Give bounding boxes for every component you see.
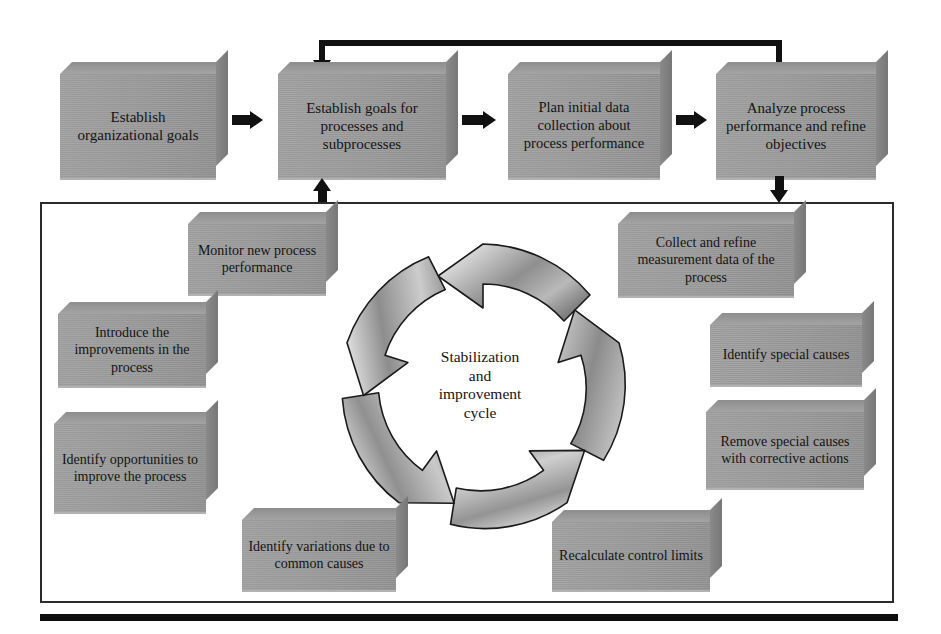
box-top-face	[58, 302, 218, 314]
box-shadow-edge	[278, 178, 446, 180]
box-front-face: Collect and refine measurement data of t…	[618, 224, 794, 296]
cycle-box-label: Collect and refine measurement data of t…	[624, 234, 788, 285]
box-top-face	[716, 62, 888, 74]
box-side-face	[660, 50, 672, 166]
cycle-box-identify-opportunities-to-improve[interactable]: Identify opportunities to improve the pr…	[54, 412, 218, 512]
stabilization-improvement-cycle-graphic	[318, 222, 648, 552]
box-shadow-edge	[54, 512, 206, 514]
box-side-face	[862, 301, 874, 373]
arrow-1-to-2-shaft	[232, 115, 252, 125]
flow-box-label: Analyze process performance and refine o…	[722, 99, 870, 154]
cycle-box-monitor-new-process-performance[interactable]: Monitor new process performance	[188, 212, 338, 294]
box-front-face: Identify variations due to common causes	[242, 520, 396, 590]
box-front-face: Establish goals for processes and subpro…	[278, 74, 446, 178]
box-side-face	[326, 200, 338, 282]
flow-box-label: Plan initial data collection about proce…	[514, 99, 654, 152]
box-shadow-edge	[188, 294, 326, 296]
box-side-face	[446, 50, 458, 166]
box-shadow-edge	[716, 178, 876, 180]
box-front-face: Remove special causes with corrective ac…	[706, 412, 864, 488]
box-front-face: Introduce the improvements in the proces…	[58, 314, 206, 386]
cycle-arrow-segment	[532, 300, 648, 468]
cycle-box-collect-and-refine-measurement-data[interactable]: Collect and refine measurement data of t…	[618, 212, 806, 296]
box-front-face: Identify special causes	[710, 325, 862, 385]
cycle-box-label: Monitor new process performance	[194, 242, 320, 276]
bottom-horizontal-rule	[40, 614, 898, 621]
arrow-panel-to-box2-shaft	[318, 190, 327, 202]
box-side-face	[864, 388, 876, 476]
cycle-box-label: Recalculate control limits	[559, 547, 703, 564]
box-top-face	[618, 212, 806, 224]
cycle-arrow-segment	[333, 241, 453, 409]
cycle-box-label: Identify special causes	[723, 346, 850, 363]
box-side-face	[216, 50, 228, 166]
cycle-box-identify-special-causes[interactable]: Identify special causes	[710, 313, 874, 385]
box-shadow-edge	[508, 178, 660, 180]
feedback-loop-horizontal-bar	[322, 40, 782, 46]
cycle-arrow-segment	[438, 244, 590, 321]
box-front-face: Analyze process performance and refine o…	[716, 74, 876, 178]
box-side-face	[396, 496, 408, 578]
cycle-box-remove-special-causes[interactable]: Remove special causes with corrective ac…	[706, 400, 876, 488]
box-front-face: Plan initial data collection about proce…	[508, 74, 660, 178]
box-front-face: Recalculate control limits	[552, 522, 710, 590]
box-shadow-edge	[552, 590, 710, 592]
box-top-face	[60, 62, 228, 74]
box-top-face	[54, 412, 218, 424]
box-front-face: Identify opportunities to improve the pr…	[54, 424, 206, 512]
arrow-3-to-4-shaft	[676, 115, 696, 125]
box-shadow-edge	[710, 385, 862, 387]
arrow-2-to-3-shaft	[462, 115, 485, 125]
arrow-panel-to-box2-head	[313, 178, 331, 191]
box-shadow-edge	[60, 178, 216, 180]
box-front-face: Establish organizational goals	[60, 74, 216, 178]
cycle-box-label: Remove special causes with corrective ac…	[712, 433, 858, 467]
box-side-face	[206, 290, 218, 374]
box-shadow-edge	[706, 488, 864, 490]
diagram-canvas: Establish organizational goals Establish…	[0, 0, 941, 634]
cycle-box-label: Identify variations due to common causes	[248, 538, 390, 572]
feedback-loop-left-drop	[319, 40, 325, 62]
box-top-face	[508, 62, 672, 74]
flow-box-establish-organizational-goals[interactable]: Establish organizational goals	[60, 62, 228, 178]
box-shadow-edge	[618, 296, 794, 298]
box-front-face: Monitor new process performance	[188, 224, 326, 294]
box-top-face	[552, 510, 722, 522]
box-top-face	[706, 400, 876, 412]
box-top-face	[710, 313, 874, 325]
flow-box-analyze-process-performance[interactable]: Analyze process performance and refine o…	[716, 62, 888, 178]
cycle-box-introduce-the-improvements[interactable]: Introduce the improvements in the proces…	[58, 302, 218, 386]
box-shadow-edge	[242, 590, 396, 592]
flow-box-label: Establish goals for processes and subpro…	[284, 99, 440, 154]
cycle-box-label: Introduce the improvements in the proces…	[64, 324, 200, 375]
cycle-box-label: Identify opportunities to improve the pr…	[60, 451, 200, 485]
cycle-box-recalculate-control-limits[interactable]: Recalculate control limits	[552, 510, 722, 590]
box-top-face	[188, 212, 338, 224]
cycle-box-identify-variations-common-causes[interactable]: Identify variations due to common causes	[242, 508, 408, 590]
box-shadow-edge	[58, 386, 206, 388]
flow-box-plan-initial-data-collection[interactable]: Plan initial data collection about proce…	[508, 62, 672, 178]
flow-box-establish-goals-for-processes[interactable]: Establish goals for processes and subpro…	[278, 62, 458, 178]
box-side-face	[794, 200, 806, 284]
box-side-face	[876, 50, 888, 166]
box-side-face	[206, 400, 218, 500]
flow-box-label: Establish organizational goals	[66, 108, 210, 145]
box-side-face	[710, 498, 722, 578]
box-top-face	[242, 508, 408, 520]
box-top-face	[278, 62, 458, 74]
